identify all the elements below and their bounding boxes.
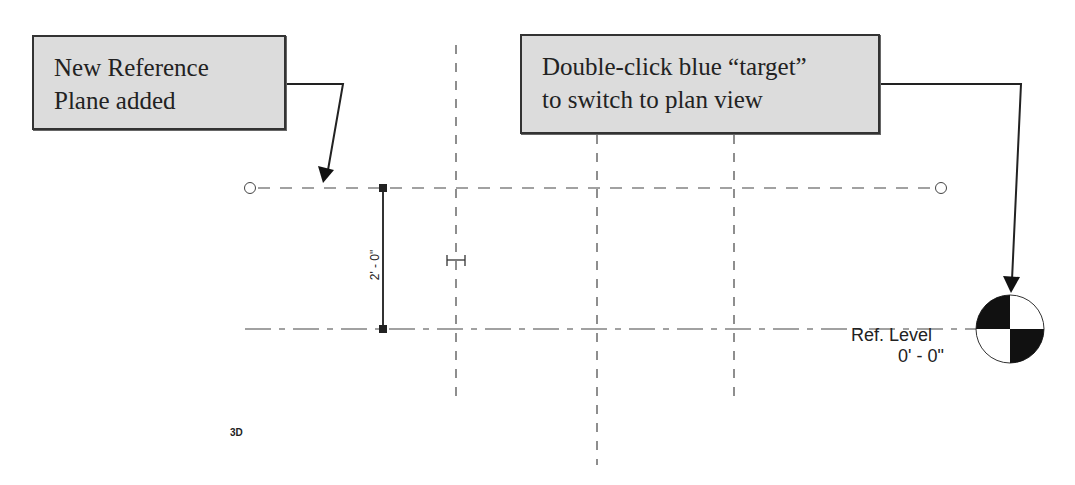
level-name[interactable]: Ref. Level [851, 325, 932, 346]
callout-line: to switch to plan view [542, 83, 860, 116]
callout-new-reference-plane: New Reference Plane added [32, 35, 286, 130]
level-elevation[interactable]: 0' - 0" [898, 346, 944, 367]
reference-plane-end-icon[interactable] [245, 183, 256, 194]
callout-line: Plane added [54, 84, 266, 117]
dimension-grip-icon[interactable] [379, 184, 387, 192]
callout-double-click-target: Double-click blue “target” to switch to … [520, 34, 880, 134]
dimension-grip-icon[interactable] [379, 325, 387, 333]
view-label: 3D [230, 427, 243, 438]
callout-line: Double-click blue “target” [542, 50, 860, 83]
callout-line: New Reference [54, 51, 266, 84]
level-target-icon[interactable] [976, 295, 1044, 363]
dimension-value[interactable]: 2' - 0" [368, 250, 382, 281]
reference-plane-end-icon[interactable] [936, 183, 947, 194]
